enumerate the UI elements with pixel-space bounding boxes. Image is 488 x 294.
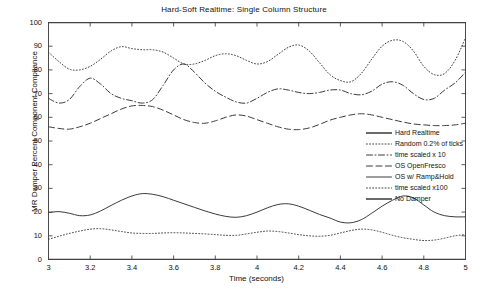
y-tick-label: 50	[12, 136, 42, 145]
x-tick-label: 4.6	[367, 263, 397, 272]
y-tick-label: 60	[12, 112, 42, 121]
legend-line-sample	[366, 183, 392, 193]
x-tick-label: 3.4	[117, 263, 147, 272]
x-tick-label: 3.6	[159, 263, 189, 272]
legend-line-sample	[366, 128, 392, 138]
legend-item[interactable]: time scaled x 10	[366, 149, 484, 160]
chart-figure: Hard-Soft Realtime: Single Column Struct…	[0, 0, 488, 294]
legend-label: Hard Realtime	[395, 128, 440, 138]
legend-label: Random 0.2% of ticks	[395, 139, 463, 149]
y-tick-label: 80	[12, 65, 42, 74]
legend-label: No Damper	[395, 194, 431, 204]
x-tick-label: 4	[242, 263, 272, 272]
y-tick-label: 100	[12, 18, 42, 27]
x-tick-label: 4.2	[284, 263, 314, 272]
y-tick-label: 40	[12, 160, 42, 169]
x-tick-label: 3	[34, 263, 64, 272]
y-tick-label: 70	[12, 89, 42, 98]
x-tick-label: 5	[451, 263, 481, 272]
legend-item[interactable]: OS OpenFresco	[366, 160, 484, 171]
chart-legend: Hard RealtimeRandom 0.2% of tickstime sc…	[366, 127, 484, 204]
x-tick-label: 4.8	[409, 263, 439, 272]
y-tick-label: 30	[12, 183, 42, 192]
legend-item[interactable]: OS w/ Ramp&Hold	[366, 171, 484, 182]
legend-item[interactable]: time scaled x100	[366, 182, 484, 193]
legend-item[interactable]: Random 0.2% of ticks	[366, 138, 484, 149]
legend-line-sample	[366, 194, 392, 204]
legend-label: OS w/ Ramp&Hold	[395, 172, 454, 182]
y-tick-label: 90	[12, 41, 42, 50]
x-axis-label: Time (seconds)	[48, 274, 465, 283]
legend-line-sample	[366, 161, 392, 171]
x-tick-label: 3.8	[200, 263, 230, 272]
y-tick-label: 20	[12, 207, 42, 216]
x-tick-label: 3.2	[75, 263, 105, 272]
legend-line-sample	[366, 172, 392, 182]
legend-item[interactable]: Hard Realtime	[366, 127, 484, 138]
legend-line-sample	[366, 150, 392, 160]
legend-line-sample	[366, 139, 392, 149]
legend-item[interactable]: No Damper	[366, 193, 484, 204]
legend-label: time scaled x 10	[395, 150, 446, 160]
legend-label: time scaled x100	[395, 183, 448, 193]
y-tick-label: 10	[12, 231, 42, 240]
legend-label: OS OpenFresco	[395, 161, 446, 171]
x-tick-label: 4.4	[325, 263, 355, 272]
